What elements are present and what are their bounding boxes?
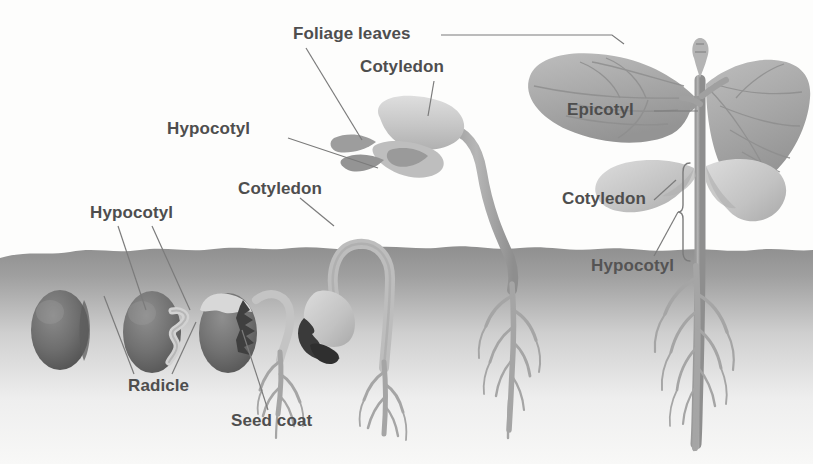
label-cotyledon-right: Cotyledon xyxy=(562,190,646,207)
leader-foliage-leaves-right xyxy=(441,35,624,44)
label-hypocotyl-right: Hypocotyl xyxy=(591,257,674,274)
germination-diagram: Foliage leaves Cotyledon Hypocotyl Cotyl… xyxy=(0,0,813,464)
label-seed-coat: Seed coat xyxy=(231,412,312,429)
label-cotyledon-top: Cotyledon xyxy=(360,58,444,75)
leader-hypocotyl-right xyxy=(654,212,678,256)
label-hypocotyl-left: Hypocotyl xyxy=(90,204,173,221)
leader-cotyledon-mid xyxy=(300,198,334,226)
label-cotyledon-middle: Cotyledon xyxy=(238,180,322,197)
label-radicle: Radicle xyxy=(128,377,189,394)
leader-foliage-leaves-left xyxy=(306,48,362,140)
label-epicotyl: Epicotyl xyxy=(567,101,634,118)
label-hypocotyl-middle: Hypocotyl xyxy=(167,120,250,137)
label-foliage-leaves: Foliage leaves xyxy=(293,25,411,42)
